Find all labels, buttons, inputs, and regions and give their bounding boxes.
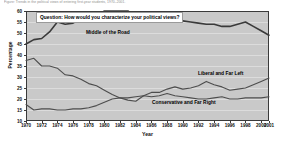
series-label-conservative-and-far-right: Conservative and Far Right [152, 100, 216, 106]
x-tick-mark [89, 121, 90, 123]
x-tick-mark [120, 121, 121, 123]
series-label-liberal-and-far-left: Liberal and Far Left [198, 71, 243, 77]
y-tick-mark [24, 55, 26, 56]
x-tick-mark [57, 121, 58, 123]
x-tick-mark [136, 121, 137, 123]
chart-figure: Figure: Trends in the political views of… [0, 0, 283, 145]
x-tick-mark [26, 121, 27, 123]
x-tick-mark [269, 121, 270, 123]
y-tick-mark [24, 66, 26, 67]
figure-caption-cutoff: Figure: Trends in the political views of… [4, 0, 279, 5]
y-tick-mark [24, 99, 26, 100]
x-tick-mark [230, 121, 231, 123]
y-tick-mark [24, 44, 26, 45]
y-tick-mark [24, 77, 26, 78]
question-box: Question: How would you characterize you… [36, 12, 183, 23]
series-lines [26, 11, 269, 121]
y-tick-mark [24, 33, 26, 34]
x-tick-mark [167, 121, 168, 123]
line-conservative-and-far-right [26, 94, 269, 111]
y-tick-label: 60 [7, 9, 22, 14]
x-tick-label: 2001 [260, 123, 278, 129]
x-tick-mark [198, 121, 199, 123]
x-tick-mark [104, 121, 105, 123]
x-tick-mark [214, 121, 215, 123]
y-tick-mark [24, 22, 26, 23]
line-liberal-and-far-left [26, 58, 269, 101]
y-tick-label: 15 [7, 108, 22, 113]
y-tick-label: 55 [7, 20, 22, 25]
x-tick-mark [183, 121, 184, 123]
x-tick-mark [73, 121, 74, 123]
x-tick-mark [245, 121, 246, 123]
y-tick-label: 20 [7, 97, 22, 102]
y-tick-mark [24, 11, 26, 12]
y-tick-label: 25 [7, 86, 22, 91]
x-axis-title: Year [26, 131, 269, 137]
x-tick-mark [151, 121, 152, 123]
x-tick-mark [42, 121, 43, 123]
series-label-middle-of-the-road: Middle of the Road [86, 30, 130, 36]
y-tick-mark [24, 110, 26, 111]
y-axis-title: Percentage [7, 29, 13, 81]
y-tick-mark [24, 88, 26, 89]
